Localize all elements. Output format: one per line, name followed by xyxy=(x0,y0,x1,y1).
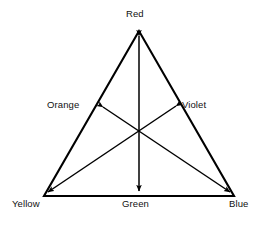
axis-orange-blue xyxy=(103,107,230,192)
axis-violet-yellow xyxy=(48,106,176,192)
vertex-label-yellow: Yellow xyxy=(12,198,40,209)
vertex-label-violet: Violet xyxy=(182,99,206,110)
vertex-label-orange: Orange xyxy=(47,99,79,110)
vertex-label-red: Red xyxy=(126,8,144,19)
color-triangle-graphic xyxy=(0,0,274,227)
vertex-label-blue: Blue xyxy=(229,198,248,209)
vertex-label-green: Green xyxy=(122,198,149,209)
color-triangle-diagram: Red Orange Violet Yellow Green Blue xyxy=(0,0,274,227)
